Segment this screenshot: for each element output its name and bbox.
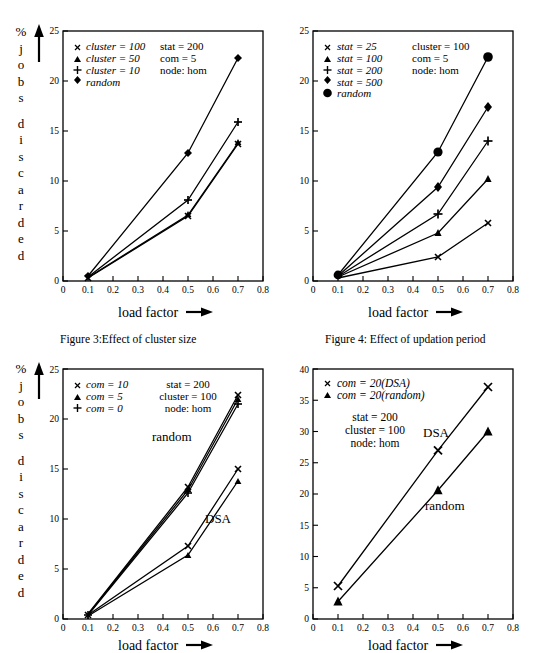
series-line-random — [88, 58, 238, 276]
y-axis-label-spacer — [8, 444, 34, 453]
y-tick-label: 15 — [300, 126, 310, 136]
y-axis-label-char: d — [8, 453, 34, 470]
param-text: stat = 200 — [352, 411, 398, 423]
annotation-random: random — [425, 498, 465, 513]
legend-marker-plus — [74, 66, 82, 74]
param-text: node: hom — [351, 437, 400, 449]
y-axis-label-char: s — [8, 486, 34, 503]
param-text: cluster = 100 — [412, 40, 470, 52]
y-axis-tick-labels: 0 5 10 15 20 25 — [50, 26, 60, 286]
y-axis-ticks — [63, 31, 68, 281]
x-tick-label: 0.7 — [232, 285, 244, 295]
legend-marker-triangle — [324, 56, 331, 62]
y-axis-label-char: j — [8, 41, 34, 58]
x-tick-label: 0.5 — [432, 285, 444, 295]
data-series-lines — [88, 58, 238, 278]
y-tick-label: 40 — [300, 365, 310, 375]
y-axis-label-char: d — [8, 585, 34, 602]
y-axis-label-char: a — [8, 519, 34, 536]
figures-page: % j o b s d i s c a r d e d — [0, 0, 540, 653]
y-axis-label-char: o — [8, 394, 34, 411]
legend-label: com = 5 — [86, 390, 123, 402]
y-tick-label: 10 — [300, 176, 310, 186]
legend-marker-triangle — [324, 392, 331, 398]
x-tick-label: 0 — [311, 623, 316, 633]
y-axis-tick-labels: 0 5 10 15 20 25 30 35 40 — [300, 365, 310, 624]
x-tick-label: 0.4 — [407, 623, 419, 633]
y-tick-label: 10 — [50, 176, 60, 186]
x-tick-label: 0.2 — [107, 285, 119, 295]
x-tick-label: 0 — [61, 623, 66, 633]
y-axis-label-char: r — [8, 535, 34, 552]
series-line-dsa-com5 — [88, 481, 238, 616]
y-axis-label-char: s — [8, 149, 34, 166]
x-tick-label: 0.8 — [257, 623, 269, 633]
y-axis-label-char: e — [8, 231, 34, 248]
x-tick-label: 0.6 — [457, 623, 469, 633]
x-tick-label: 0 — [61, 285, 66, 295]
legend-label: stat = 100 — [337, 52, 383, 64]
annotation-dsa: DSA — [423, 425, 450, 440]
y-tick-label: 5 — [304, 583, 309, 593]
x-tick-label: 0.3 — [132, 285, 144, 295]
figure-6-plot: 0 5 10 15 20 25 30 35 40 — [270, 355, 540, 653]
y-tick-label: 0 — [54, 614, 59, 624]
param-text: com = 5 — [160, 52, 197, 64]
legend-marker-x — [75, 45, 80, 50]
x-tick-label: 0.5 — [182, 285, 194, 295]
x-tick-label: 0.4 — [157, 285, 169, 295]
x-tick-label: 0.2 — [357, 623, 369, 633]
x-tick-label: 0.6 — [207, 623, 219, 633]
x-tick-label: 0.2 — [357, 285, 369, 295]
y-tick-label: 30 — [300, 427, 310, 437]
legend-label: com = 0 — [86, 402, 123, 414]
legend-marker-plus — [74, 404, 82, 412]
x-tick-label: 0.1 — [332, 285, 344, 295]
x-tick-label: 0.3 — [382, 623, 394, 633]
data-markers — [84, 392, 242, 619]
y-axis-label-char: c — [8, 502, 34, 519]
y-axis-label-char: i — [8, 132, 34, 149]
x-tick-label: 0.2 — [107, 623, 119, 633]
x-tick-label: 0 — [311, 285, 316, 295]
y-tick-label: 20 — [50, 76, 60, 86]
legend-figure-3: cluster = 100 cluster = 50 cluster = 10 … — [74, 40, 208, 88]
y-axis-label-figure-3: % j o b s d i s c a r d e d — [8, 24, 34, 264]
y-axis-label-char: % — [8, 361, 34, 378]
y-tick-label: 0 — [304, 614, 309, 624]
right-arrow-icon — [186, 308, 213, 317]
y-tick-label: 15 — [300, 521, 310, 531]
x-tick-label: 0.7 — [482, 285, 494, 295]
x-tick-label: 0.7 — [482, 623, 494, 633]
y-tick-label: 0 — [54, 276, 59, 286]
x-axis-tick-labels: 0 0.1 0.2 0.3 0.4 0.5 0.6 0.7 0.8 — [61, 623, 270, 633]
x-tick-label: 0.1 — [82, 623, 94, 633]
y-axis-label-char: d — [8, 552, 34, 569]
param-text: node: hom — [412, 64, 459, 76]
y-axis-label-char: b — [8, 74, 34, 91]
series-line-dsa-com10 — [88, 469, 238, 615]
y-axis-label-char: i — [8, 469, 34, 486]
up-arrow-icon — [34, 24, 44, 62]
x-tick-label: 0.7 — [232, 623, 244, 633]
x-axis-tick-labels: 0 0.1 0.2 0.3 0.4 0.5 0.6 0.7 0.8 — [311, 285, 520, 295]
y-tick-label: 35 — [300, 396, 310, 406]
figure-4-plot: 0 5 10 15 20 25 0 0.1 0.2 — [270, 0, 540, 330]
y-axis-tick-labels: 0 5 10 15 20 25 — [50, 365, 60, 624]
legend-marker-x — [325, 381, 330, 386]
legend-figure-6: com = 20(DSA) com = 20(random) stat = 20… — [324, 377, 425, 449]
x-tick-label: 0.8 — [507, 285, 519, 295]
y-axis-label-char: s — [8, 427, 34, 444]
y-tick-label: 15 — [50, 126, 60, 136]
y-axis-label-char: d — [8, 248, 34, 265]
legend-label: com = 20(random) — [337, 389, 425, 402]
figure-6: 0 5 10 15 20 25 30 35 40 — [270, 355, 540, 653]
series-line-cluster-10 — [88, 122, 238, 277]
y-axis-label-char: c — [8, 165, 34, 182]
x-axis-title: load factor — [118, 638, 179, 653]
annotation-random: random — [152, 429, 192, 444]
x-axis-title: load factor — [118, 305, 179, 320]
x-tick-label: 0.5 — [182, 623, 194, 633]
series-line-random — [338, 432, 488, 602]
x-tick-label: 0.4 — [157, 623, 169, 633]
